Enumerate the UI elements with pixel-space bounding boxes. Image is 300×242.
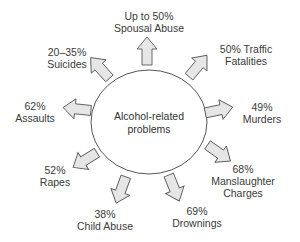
label-drownings: 69% Drownings xyxy=(172,205,222,229)
arrow-spousal-abuse xyxy=(137,37,157,65)
rapes-text: Rapes xyxy=(40,176,70,188)
alcohol-problems-diagram: Alcohol-related problems Up to 50% Spous… xyxy=(0,0,300,242)
label-child-abuse: 38% Child Abuse xyxy=(77,208,133,232)
assaults-percent: 62% xyxy=(15,100,55,112)
murders-text: Murders xyxy=(243,113,282,125)
label-assaults: 62% Assaults xyxy=(15,100,55,124)
arrow-murders xyxy=(203,97,235,122)
arrow-child-abuse xyxy=(107,173,135,206)
suicides-text: Suicides xyxy=(47,58,87,70)
arrow-rapes xyxy=(68,144,102,176)
drownings-text: Drownings xyxy=(172,217,222,229)
label-murders: 49% Murders xyxy=(243,101,282,125)
center-label: Alcohol-related problems xyxy=(114,110,184,136)
child-abuse-text: Child Abuse xyxy=(77,220,133,232)
assaults-text: Assaults xyxy=(15,112,55,124)
manslaughter-text: Manslaughter xyxy=(211,175,275,187)
drownings-percent: 69% xyxy=(172,205,222,217)
spousal-abuse-text: Spousal Abuse xyxy=(114,22,184,34)
arrow-drownings xyxy=(159,171,188,204)
label-rapes: 52% Rapes xyxy=(40,164,70,188)
center-label-line2: problems xyxy=(114,123,184,136)
label-spousal-abuse: Up to 50% Spousal Abuse xyxy=(114,10,184,34)
arrow-suicides xyxy=(83,51,117,85)
spousal-abuse-percent: Up to 50% xyxy=(114,10,184,22)
murders-percent: 49% xyxy=(243,101,282,113)
traffic-fatalities-text: Fatalities xyxy=(220,55,272,67)
center-label-line1: Alcohol-related xyxy=(114,110,184,123)
rapes-percent: 52% xyxy=(40,164,70,176)
traffic-fatalities-percent: 50% Traffic xyxy=(220,43,272,55)
label-manslaughter-charges: 68% Manslaughter Charges xyxy=(211,163,275,199)
arrow-assaults xyxy=(62,98,92,121)
label-traffic-fatalities: 50% Traffic Fatalities xyxy=(220,43,272,67)
arrow-traffic-fatalities xyxy=(181,49,214,83)
manslaughter-percent: 68% xyxy=(211,163,275,175)
label-suicides: 20–35% Suicides xyxy=(47,46,87,70)
suicides-percent: 20–35% xyxy=(47,46,87,58)
manslaughter-text-2: Charges xyxy=(211,187,275,199)
child-abuse-percent: 38% xyxy=(77,208,133,220)
